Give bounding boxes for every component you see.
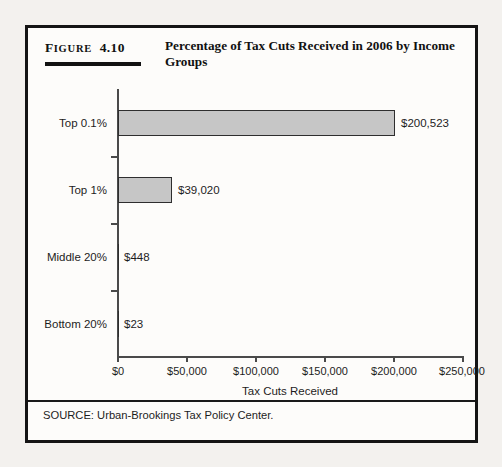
x-tick-5 xyxy=(462,356,464,362)
x-tick-1 xyxy=(186,356,188,362)
x-tick-2 xyxy=(255,356,257,362)
bar-value-bottom-20: $23 xyxy=(124,318,143,330)
x-tick-label-1: $50,000 xyxy=(167,365,207,377)
x-tick-label-2: $100,000 xyxy=(233,365,279,377)
y-tick-0 xyxy=(111,156,117,158)
bar-value-top-1: $39,020 xyxy=(178,184,220,196)
chart-plot-area: $0 $50,000 $100,000 $150,000 $200,000 $2… xyxy=(28,28,481,446)
x-tick-3 xyxy=(324,356,326,362)
x-axis-line xyxy=(117,356,463,358)
bar-value-top-01: $200,523 xyxy=(401,117,449,129)
x-tick-label-5: $250,000 xyxy=(439,365,485,377)
category-label-bottom-20: Bottom 20% xyxy=(44,318,107,330)
x-tick-label-4: $200,000 xyxy=(371,365,417,377)
x-tick-label-3: $150,000 xyxy=(302,365,348,377)
bar-top-01 xyxy=(118,110,395,136)
x-axis-title: Tax Cuts Received xyxy=(117,385,463,397)
bar-top-1 xyxy=(118,177,172,203)
y-tick-1 xyxy=(111,223,117,225)
x-tick-label-0: $0 xyxy=(112,365,124,377)
figure-frame: FIGURE 4.10 Percentage of Tax Cuts Recei… xyxy=(25,25,478,443)
source-note: SOURCE: Urban-Brookings Tax Policy Cente… xyxy=(43,409,273,421)
category-label-top-1: Top 1% xyxy=(69,184,107,196)
source-divider xyxy=(28,400,475,402)
bar-middle-20 xyxy=(118,244,119,270)
y-tick-2 xyxy=(111,290,117,292)
category-label-middle-20: Middle 20% xyxy=(47,251,107,263)
category-label-top-01: Top 0.1% xyxy=(59,117,107,129)
figure-page: FIGURE 4.10 Percentage of Tax Cuts Recei… xyxy=(0,0,502,467)
x-tick-0 xyxy=(117,356,119,362)
x-tick-4 xyxy=(393,356,395,362)
bar-value-middle-20: $448 xyxy=(124,251,150,263)
